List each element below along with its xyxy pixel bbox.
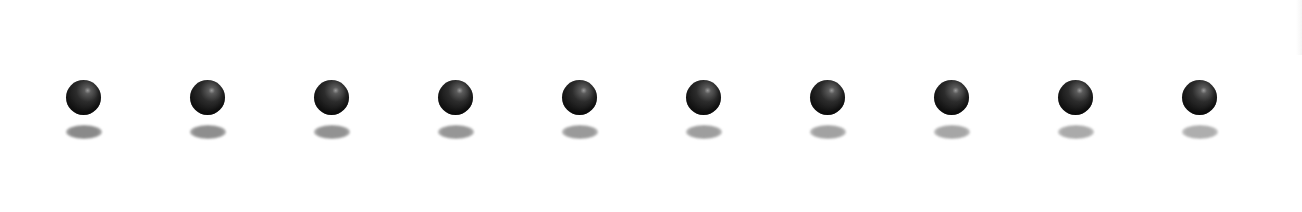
ball-shadow-icon — [686, 125, 722, 139]
ball-icon — [66, 80, 101, 115]
ball-icon — [1182, 80, 1217, 115]
loader-ball-unit — [188, 0, 228, 212]
edge-artifact — [1296, 0, 1302, 55]
ball-shadow-icon — [562, 125, 598, 139]
ball-icon — [314, 80, 349, 115]
ball-icon — [810, 80, 845, 115]
ball-icon — [686, 80, 721, 115]
ball-shadow-icon — [190, 125, 226, 139]
ball-icon — [562, 80, 597, 115]
loader-ball-unit — [64, 0, 104, 212]
ball-icon — [1058, 80, 1093, 115]
loader-ball-unit — [312, 0, 352, 212]
ball-shadow-icon — [314, 125, 350, 139]
loader-ball-unit — [1180, 0, 1220, 212]
loader-ball-unit — [808, 0, 848, 212]
ball-shadow-icon — [934, 125, 970, 139]
loader-ball-unit — [684, 0, 724, 212]
ball-icon — [438, 80, 473, 115]
ball-shadow-icon — [66, 125, 102, 139]
ball-icon — [934, 80, 969, 115]
ball-shadow-icon — [1058, 125, 1094, 139]
loader-ball-unit — [932, 0, 972, 212]
loading-animation — [0, 0, 1302, 212]
loader-ball-unit — [560, 0, 600, 212]
ball-shadow-icon — [810, 125, 846, 139]
loader-ball-unit — [436, 0, 476, 212]
ball-shadow-icon — [1182, 125, 1218, 139]
loader-ball-unit — [1056, 0, 1096, 212]
ball-icon — [190, 80, 225, 115]
ball-shadow-icon — [438, 125, 474, 139]
